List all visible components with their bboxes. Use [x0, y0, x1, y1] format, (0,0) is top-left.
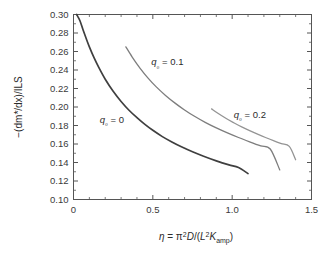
x-axis-title-amp: amp — [216, 237, 230, 245]
y-tick-label-0.26: 0.26 — [50, 46, 69, 57]
y-axis-title-minus-dm: −(dm — [13, 115, 24, 138]
x-tick-label-0.5: 0.5 — [146, 204, 159, 215]
y-tick-label-0.20: 0.20 — [50, 101, 69, 112]
plot-area-background — [73, 14, 312, 200]
y-tick-label-0.28: 0.28 — [50, 27, 69, 38]
x-axis-title-equals: = — [164, 231, 175, 242]
x-axis-title-close: ) — [230, 231, 233, 242]
y-axis-title-rest: /dx)/ILS — [13, 76, 24, 111]
x-axis-title: η = π2D/(L2Kamp) — [159, 231, 233, 245]
annotation-q-0: q₀ = 0 — [100, 114, 124, 126]
annotation-q-0-2: q₀ = 0.2 — [234, 109, 266, 121]
chart-figure: 00.51.01.5 0.100.120.140.160.180.200.220… — [0, 0, 331, 254]
y-tick-labels: 0.100.120.140.160.180.200.220.240.260.28… — [50, 9, 69, 205]
y-axis-title: −(dm*/dx)/ILS — [13, 76, 24, 138]
x-tick-label-1.0: 1.0 — [226, 204, 239, 215]
x-axis-title-d: D — [187, 231, 194, 242]
y-tick-label-0.14: 0.14 — [50, 157, 69, 168]
x-tick-label-0: 0 — [71, 204, 76, 215]
y-tick-label-0.18: 0.18 — [50, 120, 69, 131]
y-tick-label-0.10: 0.10 — [50, 194, 69, 205]
y-tick-label-0.12: 0.12 — [50, 175, 69, 186]
y-tick-label-0.30: 0.30 — [50, 9, 69, 20]
x-tick-labels: 00.51.01.5 — [71, 204, 318, 215]
svg-text:−(dm*/dx)/ILS: −(dm*/dx)/ILS — [13, 76, 24, 138]
y-tick-label-0.16: 0.16 — [50, 138, 69, 149]
y-tick-label-0.24: 0.24 — [50, 64, 69, 75]
chart-canvas: 00.51.01.5 0.100.120.140.160.180.200.220… — [0, 0, 331, 254]
y-tick-label-0.22: 0.22 — [50, 83, 69, 94]
svg-text:η = π2D/(L2Kamp): η = π2D/(L2Kamp) — [159, 231, 233, 245]
x-tick-label-1.5: 1.5 — [305, 204, 318, 215]
annotation-q-0-1: q₀ = 0.1 — [151, 56, 183, 68]
